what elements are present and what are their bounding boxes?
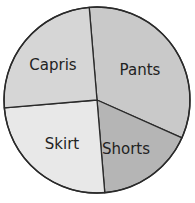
pie-chart: Pants Shorts Skirt Capris	[0, 0, 195, 203]
pie-slices	[4, 7, 190, 193]
slice-label-pants: Pants	[120, 61, 161, 79]
slice-label-shorts: Shorts	[102, 140, 150, 158]
slice-label-capris: Capris	[29, 56, 77, 74]
slice-label-skirt: Skirt	[45, 135, 80, 153]
